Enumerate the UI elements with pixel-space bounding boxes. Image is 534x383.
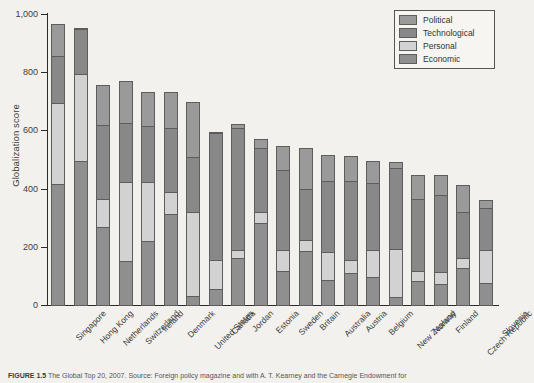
bar-netherlands[interactable]	[96, 85, 110, 305]
caption-label: FIGURE 1.5	[8, 372, 46, 379]
bar-segment-technological	[119, 123, 133, 183]
bar-segment-economic	[276, 271, 290, 306]
bar-denmark[interactable]	[164, 92, 178, 305]
bar-segment-personal	[479, 250, 493, 283]
bar-segment-personal	[141, 182, 155, 242]
caption-text: The Global Top 20, 2007. Source: Foreign…	[48, 372, 407, 379]
bar-canada[interactable]	[209, 132, 223, 305]
x-axis-line	[47, 305, 499, 306]
bar-segment-technological	[74, 29, 88, 76]
x-label-ireland: Ireland	[161, 309, 186, 334]
bar-segment-economic	[411, 281, 425, 306]
bar-segment-economic	[254, 223, 268, 306]
bar-segment-economic	[389, 297, 403, 306]
bar-segment-personal	[209, 260, 223, 289]
bar-segment-economic	[231, 258, 245, 306]
bar-segment-personal	[389, 249, 403, 298]
bar-united-states[interactable]	[186, 102, 200, 305]
x-label-belgium: Belgium	[387, 309, 415, 337]
bar-segment-political	[96, 85, 110, 126]
legend-label-economic: Economic	[423, 55, 460, 64]
bar-australia[interactable]	[321, 155, 335, 305]
x-label-estonia: Estonia	[274, 309, 300, 335]
bar-segment-personal	[51, 103, 65, 184]
bar-segment-technological	[389, 168, 403, 249]
bar-segment-political	[456, 185, 470, 213]
bar-segment-political	[164, 92, 178, 128]
bar-segment-economic	[434, 284, 448, 306]
bar-segment-technological	[51, 56, 65, 104]
bar-ireland[interactable]	[141, 92, 155, 305]
bar-britain[interactable]	[299, 148, 313, 305]
bar-austria[interactable]	[344, 156, 358, 305]
bar-jordan[interactable]	[231, 124, 245, 305]
bar-segment-political	[299, 148, 313, 190]
bar-segment-technological	[456, 212, 470, 259]
bar-segment-personal	[119, 182, 133, 262]
legend-label-political: Political	[423, 16, 452, 25]
bar-segment-economic	[456, 268, 470, 306]
legend-swatch-political-icon	[399, 15, 417, 25]
bar-segment-economic	[299, 251, 313, 306]
bar-belgium[interactable]	[366, 161, 380, 305]
bar-estonia[interactable]	[254, 139, 268, 305]
bar-switzerland[interactable]	[119, 81, 133, 305]
bar-segment-technological	[96, 125, 110, 201]
bar-segment-economic	[321, 280, 335, 306]
bar-segment-personal	[321, 252, 335, 281]
bar-segment-technological	[366, 183, 380, 251]
bar-segment-political	[411, 175, 425, 200]
bar-segment-economic	[141, 241, 155, 306]
legend-item-technological[interactable]: Technological	[399, 27, 490, 39]
y-tick-label-1000: 1,000	[0, 10, 38, 19]
bar-finland[interactable]	[434, 175, 448, 305]
legend-swatch-technological-icon	[399, 28, 417, 38]
bar-segment-technological	[411, 199, 425, 272]
bar-segment-personal	[186, 212, 200, 296]
bar-segment-economic	[366, 277, 380, 306]
bar-segment-technological	[321, 181, 335, 252]
bar-czech-republic[interactable]	[456, 185, 470, 305]
bar-segment-technological	[186, 157, 200, 214]
bar-segment-personal	[96, 199, 110, 228]
bar-segment-political	[344, 156, 358, 182]
bar-segment-economic	[209, 289, 223, 306]
bar-segment-economic	[186, 296, 200, 306]
bar-slovenia[interactable]	[479, 200, 493, 305]
bar-segment-personal	[164, 192, 178, 215]
figure-caption: FIGURE 1.5 The Global Top 20, 2007. Sour…	[8, 372, 500, 380]
bar-segment-political	[321, 155, 335, 183]
bar-segment-technological	[254, 148, 268, 213]
x-label-denmark: Denmark	[186, 309, 217, 340]
legend-item-personal[interactable]: Personal	[399, 40, 490, 52]
legend-label-personal: Personal	[423, 42, 457, 51]
legend-swatch-economic-icon	[399, 54, 417, 64]
legend-item-political[interactable]: Political	[399, 14, 490, 26]
bar-segment-technological	[276, 170, 290, 251]
legend-label-technological: Technological	[423, 29, 475, 38]
bar-segment-political	[276, 146, 290, 171]
bar-norway[interactable]	[411, 175, 425, 305]
bar-sweden[interactable]	[276, 146, 290, 305]
bar-new-zealand[interactable]	[389, 162, 403, 305]
bar-segment-personal	[74, 74, 88, 161]
bar-segment-technological	[344, 181, 358, 261]
bar-segment-political	[119, 81, 133, 125]
bar-segment-economic	[96, 227, 110, 306]
bar-segment-economic	[479, 283, 493, 306]
x-label-finland: Finland	[454, 309, 480, 335]
legend-swatch-personal-icon	[399, 41, 417, 51]
bar-segment-economic	[74, 161, 88, 307]
bar-segment-technological	[434, 195, 448, 274]
bar-singapore[interactable]	[51, 24, 65, 305]
legend-item-economic[interactable]: Economic	[399, 53, 490, 65]
bar-segment-political	[366, 161, 380, 184]
bar-segment-economic	[164, 214, 178, 306]
y-tick-0	[41, 305, 47, 306]
bar-segment-technological	[479, 208, 493, 252]
bar-hong-kong[interactable]	[74, 28, 88, 305]
bar-segment-technological	[164, 128, 178, 193]
bar-segment-political	[434, 175, 448, 195]
bar-segment-political	[51, 24, 65, 57]
bar-segment-technological	[299, 189, 313, 241]
